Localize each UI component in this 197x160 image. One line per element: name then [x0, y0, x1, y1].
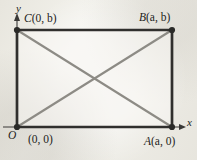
geometry-figure: y x C(0, b) B(a, b) O (0, 0) A(a, 0) — [0, 0, 197, 160]
vertex-label-A-coords: (a, 0) — [151, 135, 175, 147]
vertex-dot-C — [14, 27, 20, 33]
origin-label: O — [8, 130, 16, 142]
origin-coords-label: (0, 0) — [28, 134, 53, 146]
vertex-label-A: A(a, 0) — [144, 136, 175, 148]
vertex-label-C-coords: (0, b) — [32, 12, 57, 24]
vertex-label-C: C(0, b) — [24, 13, 57, 25]
vertex-dot-A — [169, 124, 175, 130]
y-axis-arrowhead — [14, 13, 20, 21]
y-axis-label: y — [16, 3, 21, 14]
vertex-dot-B — [169, 27, 175, 33]
x-axis-arrowhead — [179, 124, 186, 130]
vertex-label-B: B(a, b) — [139, 12, 170, 24]
x-axis-label: x — [187, 117, 192, 128]
vertex-label-B-coords: (a, b) — [146, 11, 170, 23]
